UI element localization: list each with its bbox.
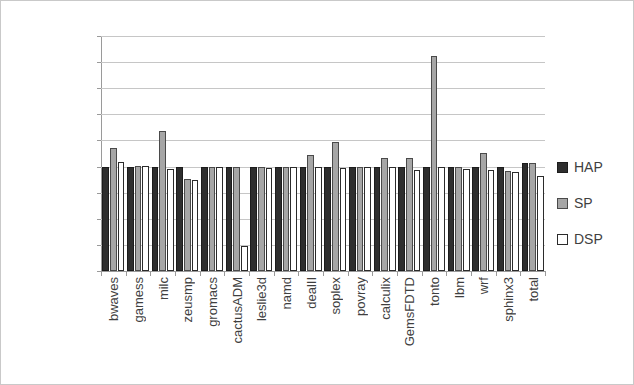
x-axis-tick xyxy=(446,271,447,276)
legend-swatch-dsp-icon xyxy=(557,234,568,245)
bar-group xyxy=(422,36,447,271)
bar-dsp xyxy=(315,167,322,271)
bar-sp xyxy=(184,179,191,271)
bar-group xyxy=(372,36,397,271)
legend-swatch-hap-icon xyxy=(557,162,568,173)
bar-dsp xyxy=(463,169,470,271)
bar-dsp xyxy=(438,167,445,271)
x-axis-tick xyxy=(397,271,398,276)
x-axis-label: cactusADM xyxy=(230,277,245,343)
x-axis-tick xyxy=(422,271,423,276)
x-axis-label: milc xyxy=(156,277,171,300)
bar-group xyxy=(150,36,175,271)
bar-group xyxy=(323,36,348,271)
x-axis-label: lbm xyxy=(452,277,467,298)
x-axis-tick xyxy=(520,271,521,276)
bar-sp xyxy=(455,167,462,271)
bar-sp xyxy=(480,153,487,271)
bar-sp xyxy=(332,142,339,272)
x-axis-label: zeusmp xyxy=(180,277,195,323)
bar-hap xyxy=(423,167,430,271)
x-axis-tick xyxy=(496,271,497,276)
x-axis-tick xyxy=(545,271,546,276)
bar-group xyxy=(298,36,323,271)
legend-item-sp[interactable]: SP xyxy=(557,185,631,221)
bar-dsp xyxy=(192,180,199,271)
bar-sp xyxy=(258,167,265,271)
bar-hap xyxy=(152,167,159,271)
bar-sp xyxy=(505,171,512,271)
bar-hap xyxy=(497,167,504,271)
bar-hap xyxy=(374,167,381,271)
bar-hap xyxy=(472,167,479,271)
x-axis-tick xyxy=(150,271,151,276)
legend-label: SP xyxy=(574,195,593,211)
bar-sp xyxy=(529,163,536,271)
x-axis-tick xyxy=(274,271,275,276)
x-axis-tick xyxy=(249,271,250,276)
bar-hap xyxy=(250,167,257,271)
bar-dsp xyxy=(290,167,297,271)
x-axis-label: tonto xyxy=(427,277,442,306)
bar-group xyxy=(224,36,249,271)
x-axis-tick xyxy=(372,271,373,276)
bar-hap xyxy=(127,167,134,271)
bar-group xyxy=(446,36,471,271)
bar-sp xyxy=(431,56,438,271)
bar-dsp xyxy=(118,162,125,271)
bar-group xyxy=(520,36,545,271)
bar-sp xyxy=(381,158,388,271)
bar-hap xyxy=(398,167,405,271)
bar-hap xyxy=(176,167,183,271)
x-axis-label: sphinx3 xyxy=(501,277,516,322)
bar-group xyxy=(126,36,151,271)
bar-dsp xyxy=(364,167,371,271)
bar-group xyxy=(101,36,126,271)
x-axis-labels: bwavesgamessmilczeusmpgromacscactusADMle… xyxy=(101,277,545,377)
legend-item-hap[interactable]: HAP xyxy=(557,149,631,185)
bar-hap xyxy=(226,167,233,271)
bar-group xyxy=(496,36,521,271)
x-axis-label: gamess xyxy=(131,277,146,323)
x-axis-tick xyxy=(471,271,472,276)
x-axis-label: wrf xyxy=(476,277,491,294)
x-axis-tick xyxy=(298,271,299,276)
x-axis-label: povray xyxy=(353,277,368,316)
bar-group xyxy=(397,36,422,271)
bar-sp xyxy=(209,167,216,271)
bar-group xyxy=(200,36,225,271)
bar-hap xyxy=(275,167,282,271)
chart-frame: 125.00%120.00%115.00%110.00%105.00%100.0… xyxy=(0,0,634,385)
x-axis-tick xyxy=(126,271,127,276)
bar-hap xyxy=(102,167,109,271)
bar-hap xyxy=(522,163,529,271)
bar-hap xyxy=(201,167,208,271)
chart-legend: HAPSPDSP xyxy=(557,149,631,257)
bar-sp xyxy=(110,148,117,271)
bar-dsp xyxy=(414,170,421,271)
bar-dsp xyxy=(167,169,174,271)
bar-dsp xyxy=(266,168,273,271)
x-axis-tick xyxy=(224,271,225,276)
x-axis-label: dealII xyxy=(304,277,319,309)
bar-group xyxy=(471,36,496,271)
bar-group xyxy=(348,36,373,271)
bar-sp xyxy=(233,167,240,271)
x-axis-label: bwaves xyxy=(106,277,121,321)
bar-dsp xyxy=(537,176,544,271)
bar-dsp xyxy=(216,167,223,271)
bar-group xyxy=(274,36,299,271)
bar-sp xyxy=(307,155,314,271)
bar-hap xyxy=(324,167,331,271)
x-axis-tick xyxy=(101,271,102,276)
bar-group xyxy=(249,36,274,271)
x-axis-label: calculix xyxy=(378,277,393,320)
bar-sp xyxy=(283,167,290,271)
bar-dsp xyxy=(389,167,396,271)
x-axis-tick xyxy=(323,271,324,276)
bar-sp xyxy=(159,131,166,271)
bar-series-container xyxy=(101,36,545,271)
bar-hap xyxy=(300,167,307,271)
legend-item-dsp[interactable]: DSP xyxy=(557,221,631,257)
bar-dsp xyxy=(340,168,347,271)
